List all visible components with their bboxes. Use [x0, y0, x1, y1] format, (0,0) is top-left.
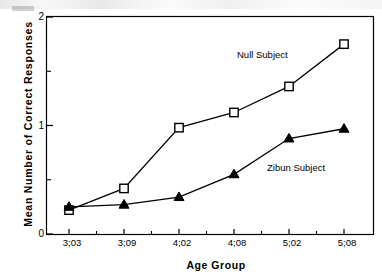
series-line: [69, 129, 344, 207]
series-null-subject: [65, 40, 348, 214]
data-point-marker: [340, 40, 348, 48]
data-point-marker: [339, 124, 349, 133]
plot-frame: [47, 17, 374, 235]
chart-figure: Mean Number of Correct Responses Age Gro…: [0, 0, 382, 280]
data-point-marker: [175, 123, 183, 131]
data-point-marker: [120, 184, 128, 192]
data-point-marker: [230, 108, 238, 116]
data-point-marker: [229, 169, 239, 178]
series-zibun-subject: [64, 124, 349, 211]
plot-area: [0, 0, 382, 280]
series-layer: [64, 40, 349, 214]
data-point-marker: [285, 82, 293, 90]
